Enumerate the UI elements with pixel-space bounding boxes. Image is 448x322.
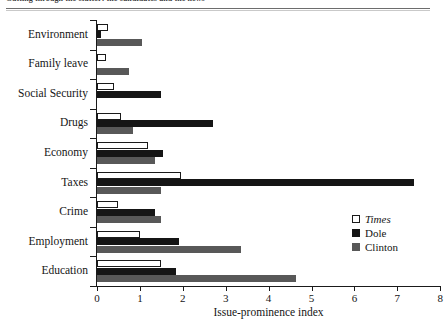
x-axis-tick — [440, 286, 441, 291]
bar-times-family-leave — [97, 54, 106, 61]
bar-dole-economy — [97, 150, 163, 157]
x-axis-tick-label-4: 4 — [254, 292, 284, 304]
x-axis-tick-label-6: 6 — [339, 292, 369, 304]
y-axis-tick — [90, 256, 97, 257]
y-axis-label-environment: Environment — [2, 28, 88, 40]
y-axis-tick — [90, 79, 97, 80]
legend-label-clinton: Clinton — [365, 240, 398, 254]
x-axis-tick — [183, 286, 184, 291]
x-axis-tick — [226, 286, 227, 291]
x-axis-tick-label-8: 8 — [425, 292, 448, 304]
bar-clinton-crime — [97, 216, 161, 223]
y-axis-tick — [90, 227, 97, 228]
y-axis-label-family-leave: Family leave — [2, 57, 88, 69]
x-axis-tick — [97, 286, 98, 291]
y-axis-label-crime: Crime — [2, 205, 88, 217]
bar-times-economy — [97, 142, 148, 149]
x-axis-tick-label-2: 2 — [168, 292, 198, 304]
x-axis-tick — [312, 286, 313, 291]
bar-times-taxes — [97, 172, 181, 179]
hollow-square-icon — [352, 215, 360, 223]
bar-dole-environment — [97, 31, 101, 38]
y-axis-tick — [90, 286, 97, 287]
gray-square-icon — [352, 243, 360, 251]
bar-dole-crime — [97, 209, 155, 216]
figure-caption-cropped: Cutting through the clutter: the candida… — [6, 0, 426, 7]
x-axis-tick — [354, 286, 355, 291]
bar-times-social-security — [97, 83, 114, 90]
bar-clinton-family-leave — [97, 68, 129, 75]
y-axis-tick — [90, 109, 97, 110]
bar-dole-social-security — [97, 91, 161, 98]
legend-item-clinton: Clinton — [352, 240, 398, 254]
x-axis-tick-label-3: 3 — [211, 292, 241, 304]
bar-times-drugs — [97, 113, 121, 120]
legend-item-times: Times — [352, 212, 398, 226]
x-axis-tick-label-5: 5 — [297, 292, 327, 304]
figure-caption-text: Cutting through the clutter: the candida… — [6, 0, 205, 3]
y-axis-tick — [90, 197, 97, 198]
x-axis-title: Issue-prominence index — [97, 306, 440, 318]
y-axis-tick — [90, 168, 97, 169]
y-axis-label-taxes: Taxes — [2, 176, 88, 188]
bar-clinton-drugs — [97, 127, 133, 134]
bar-dole-taxes — [97, 179, 414, 186]
bar-clinton-economy — [97, 157, 155, 164]
bar-group — [97, 138, 440, 168]
x-axis-tick-label-1: 1 — [125, 292, 155, 304]
chart-legend: TimesDoleClinton — [352, 212, 398, 254]
legend-label-dole: Dole — [365, 226, 386, 240]
y-axis-tick — [90, 50, 97, 51]
legend-item-dole: Dole — [352, 226, 398, 240]
bar-clinton-taxes — [97, 187, 161, 194]
y-axis-label-education: Education — [2, 264, 88, 276]
bar-group — [97, 20, 440, 50]
bar-times-education — [97, 260, 161, 267]
y-axis-label-drugs: Drugs — [2, 116, 88, 128]
bar-clinton-education — [97, 275, 296, 282]
bar-group — [97, 109, 440, 139]
x-axis-tick-label-7: 7 — [382, 292, 412, 304]
y-axis-label-economy: Economy — [2, 146, 88, 158]
bar-dole-employment — [97, 238, 179, 245]
bar-group — [97, 168, 440, 198]
bar-times-crime — [97, 201, 118, 208]
bar-times-environment — [97, 24, 108, 31]
bar-clinton-employment — [97, 246, 241, 253]
x-axis-tick — [140, 286, 141, 291]
bar-clinton-environment — [97, 39, 142, 46]
bar-group — [97, 256, 440, 286]
caption-rule-divider-secondary — [6, 10, 430, 11]
y-axis-label-social-security: Social Security — [2, 87, 88, 99]
bar-dole-drugs — [97, 120, 213, 127]
y-axis-tick — [90, 20, 97, 21]
legend-label-times: Times — [365, 212, 391, 226]
bar-dole-education — [97, 268, 176, 275]
x-axis-tick — [397, 286, 398, 291]
y-axis-category-labels: EnvironmentFamily leaveSocial SecurityDr… — [0, 20, 88, 286]
bar-group — [97, 79, 440, 109]
x-axis-tick — [269, 286, 270, 291]
x-axis-tick-label-0: 0 — [82, 292, 112, 304]
bar-times-employment — [97, 231, 140, 238]
caption-rule-divider — [6, 8, 430, 9]
y-axis-label-employment: Employment — [2, 235, 88, 247]
y-axis-tick — [90, 138, 97, 139]
black-square-icon — [352, 229, 360, 237]
bar-group — [97, 50, 440, 80]
